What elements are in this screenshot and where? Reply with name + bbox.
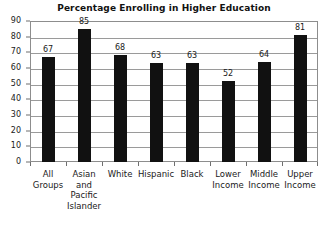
chart-title: Percentage Enrolling in Higher Education	[0, 3, 328, 14]
y-tick-label: 70	[11, 48, 21, 56]
x-category-label: UpperIncome	[284, 169, 315, 190]
bar-value-label: 85	[79, 18, 89, 26]
x-category-label: Black	[181, 169, 204, 180]
bar	[78, 29, 91, 162]
y-tick-label: 40	[11, 95, 21, 103]
y-tick-label: 0	[16, 158, 21, 166]
x-category-label: Hispanic	[138, 169, 174, 180]
bar	[114, 55, 127, 162]
x-tick-mark	[102, 162, 103, 166]
x-tick-mark	[138, 162, 139, 166]
bar-value-label: 67	[43, 46, 53, 54]
bar	[294, 35, 307, 162]
x-tick-mark	[174, 162, 175, 166]
bar-value-label: 63	[151, 52, 161, 60]
bar	[222, 81, 235, 162]
bar-value-label: 64	[259, 51, 269, 59]
bar-value-label: 81	[295, 24, 305, 32]
y-tick-label: 20	[11, 127, 21, 135]
bar-value-label: 52	[223, 70, 233, 78]
bar	[42, 57, 55, 162]
x-tick-mark	[66, 162, 67, 166]
x-tick-mark	[30, 162, 31, 166]
bar-value-label: 63	[187, 52, 197, 60]
x-tick-mark	[317, 162, 318, 166]
y-tick-label: 30	[11, 111, 21, 119]
x-category-label: White	[108, 169, 133, 180]
bar	[150, 63, 163, 162]
x-category-label: LowerIncome	[212, 169, 243, 190]
y-tick-label: 80	[11, 33, 21, 41]
y-tick-label: 10	[11, 142, 21, 150]
bars-layer: 6785686363526481	[30, 21, 318, 162]
bar-chart: Percentage Enrolling in Higher Education…	[0, 0, 328, 227]
y-tick-label: 90	[11, 17, 21, 25]
x-category-label: AsianandPacificIslander	[67, 169, 101, 211]
x-category-label: MiddleIncome	[248, 169, 279, 190]
x-axis: AllGroupsAsianandPacificIslanderWhiteHis…	[30, 162, 318, 227]
x-category-label: AllGroups	[33, 169, 63, 190]
y-tick-label: 50	[11, 80, 21, 88]
bar	[258, 62, 271, 162]
x-tick-mark	[282, 162, 283, 166]
bar	[186, 63, 199, 162]
x-tick-mark	[210, 162, 211, 166]
y-axis: 0102030405060708090	[0, 21, 26, 162]
x-tick-mark	[246, 162, 247, 166]
y-tick-label: 60	[11, 64, 21, 72]
bar-value-label: 68	[115, 44, 125, 52]
